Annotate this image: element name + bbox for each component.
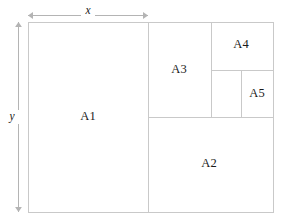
width-dimension: x <box>28 4 148 19</box>
region-label-a5: A5 <box>249 86 264 100</box>
region-label-a4: A4 <box>233 37 249 51</box>
region-label-a1: A1 <box>80 109 95 123</box>
width-dimension-label: x <box>84 4 91 16</box>
region-label-a2: A2 <box>201 156 216 170</box>
height-dimension: y <box>5 22 22 212</box>
diagram-canvas: A1A2A3A4A5 xy <box>0 0 283 224</box>
region-label-a3: A3 <box>171 62 186 76</box>
rectangle-partition-diagram: A1A2A3A4A5 xy <box>0 0 283 224</box>
height-dimension-label: y <box>8 110 15 123</box>
